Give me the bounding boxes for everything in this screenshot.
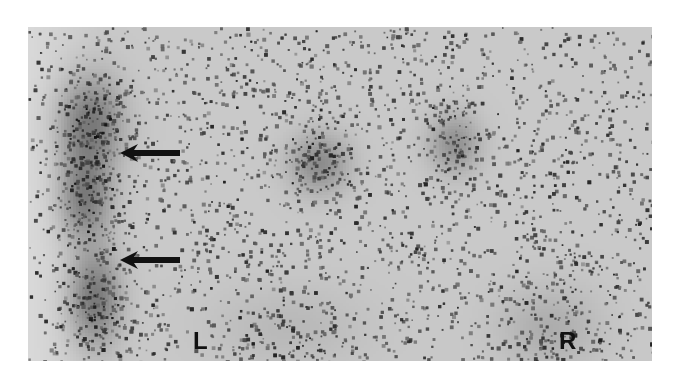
lower-arrow-icon <box>120 251 180 273</box>
left-side-label: L <box>193 329 208 353</box>
scintigraphy-scan: L R <box>28 27 652 361</box>
scan-image <box>28 27 652 361</box>
upper-arrow-icon <box>120 144 180 166</box>
right-side-label: R <box>559 329 576 353</box>
